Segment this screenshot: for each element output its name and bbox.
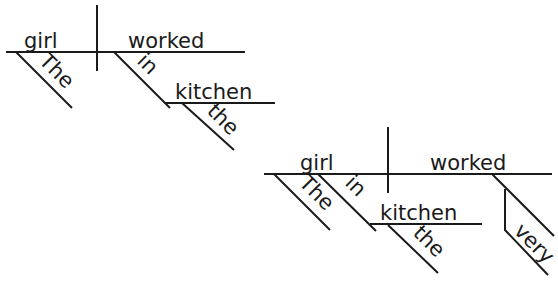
sentence-diagram-canvas: girl worked The in kitchen the girl work… — [0, 0, 558, 281]
subject-modifier-word: The — [34, 48, 79, 93]
object-modifier-word: the — [202, 99, 243, 140]
verb-word: worked — [430, 151, 506, 175]
object-word: kitchen — [175, 80, 252, 104]
preposition-word: in — [340, 171, 371, 202]
diagram-2: girl worked The in kitchen the very — [264, 127, 558, 275]
subject-modifier-word: The — [294, 170, 339, 215]
verb-word: worked — [128, 29, 204, 53]
object-modifier-word: the — [408, 221, 449, 262]
diagram-1: girl worked The in kitchen the — [6, 5, 275, 150]
object-word: kitchen — [380, 201, 457, 225]
subject-word: girl — [300, 151, 334, 175]
